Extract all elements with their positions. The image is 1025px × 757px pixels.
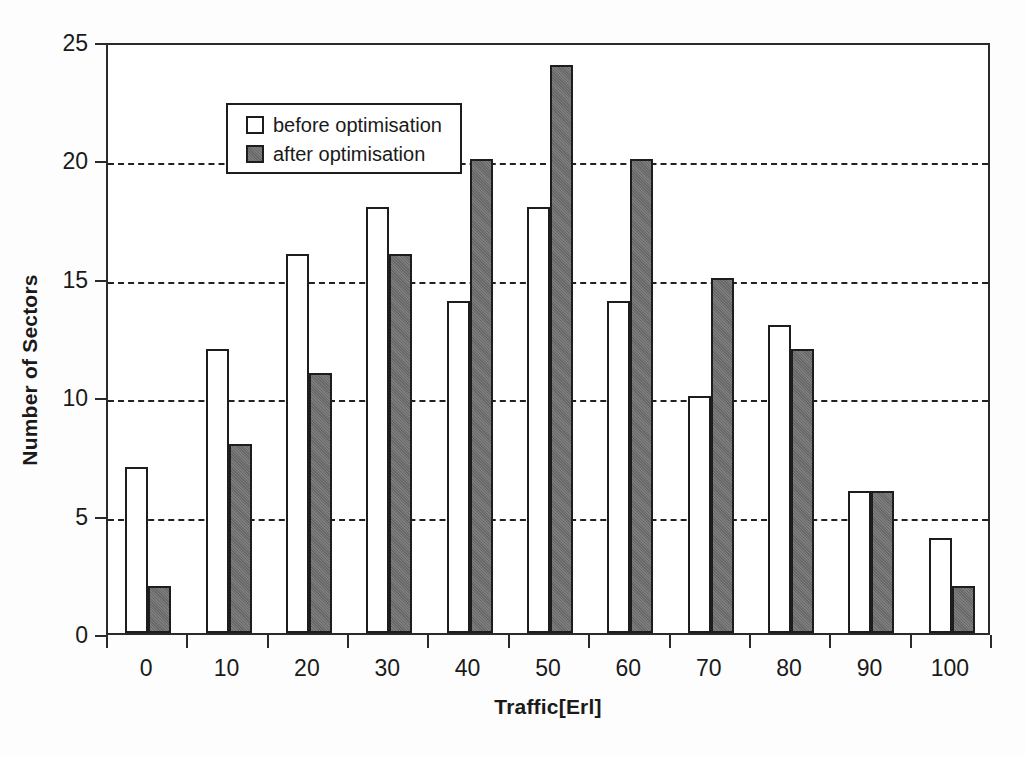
bar [929, 538, 952, 633]
legend-label-after: after optimisation [273, 144, 425, 164]
plot-area: before optimisation after optimisation [106, 43, 990, 635]
bar [447, 301, 470, 633]
x-axis-tick-mark [910, 635, 912, 648]
bar [688, 396, 711, 633]
x-axis-tick-mark [267, 635, 269, 648]
bar [470, 159, 493, 633]
bar [711, 278, 734, 633]
bar [630, 159, 653, 633]
x-axis-tick-label: 0 [140, 655, 153, 682]
x-axis-tick-mark [427, 635, 429, 648]
x-axis-tick-label: 100 [931, 655, 969, 682]
bar [791, 349, 814, 633]
y-axis-tick-mark [95, 398, 106, 400]
bar [607, 301, 630, 633]
y-axis-tick-mark [95, 517, 106, 519]
legend-label-before: before optimisation [273, 115, 442, 135]
bar [206, 349, 229, 633]
x-axis-tick-label: 30 [374, 655, 400, 682]
x-axis-tick-mark [669, 635, 671, 648]
y-axis-tick-label: 10 [36, 385, 88, 412]
y-axis-tick-label: 5 [36, 503, 88, 530]
x-axis-tick-mark [106, 635, 108, 648]
legend-entry: after optimisation [246, 139, 460, 168]
x-axis-tick-mark [347, 635, 349, 648]
chart-page: Number of Sectors 0510152025 before opti… [0, 0, 1025, 757]
bar [527, 207, 550, 633]
x-axis-tick-label: 50 [535, 655, 561, 682]
y-axis-tick-labels: 0510152025 [20, 43, 88, 635]
x-axis-tick-label: 40 [455, 655, 481, 682]
bar [125, 467, 148, 633]
y-axis-tick-mark [95, 161, 106, 163]
x-axis-tick-label: 20 [294, 655, 320, 682]
x-axis-title: Traffic[Erl] [106, 695, 990, 719]
bar [871, 491, 894, 633]
x-axis-tick-label: 60 [616, 655, 642, 682]
x-axis-tick-label: 10 [214, 655, 240, 682]
bar [952, 586, 975, 633]
y-axis-tick-label: 25 [36, 30, 88, 57]
x-axis-tick-mark [749, 635, 751, 648]
x-axis-tick-mark [186, 635, 188, 648]
bar [309, 373, 332, 633]
x-axis-tick-label: 80 [776, 655, 802, 682]
bar [768, 325, 791, 633]
x-axis-tick-mark [829, 635, 831, 648]
bar [550, 65, 573, 633]
y-axis-tick-mark [95, 280, 106, 282]
legend-swatch-before-icon [246, 116, 264, 134]
x-axis-tick-label: 90 [857, 655, 883, 682]
x-axis-tick-mark [588, 635, 590, 648]
y-axis-tick-label: 0 [36, 622, 88, 649]
y-axis-tick-mark [95, 43, 106, 45]
x-axis-tick-mark [508, 635, 510, 648]
bar [366, 207, 389, 633]
legend-swatch-after-icon [246, 145, 264, 163]
x-axis-tick-label: 70 [696, 655, 722, 682]
legend-entry: before optimisation [246, 110, 460, 139]
legend: before optimisation after optimisation [226, 103, 462, 174]
bar [286, 254, 309, 633]
x-axis-tick-mark [990, 635, 992, 648]
bar [848, 491, 871, 633]
y-axis-tick-label: 20 [36, 148, 88, 175]
y-axis-tick-mark [95, 635, 106, 637]
y-axis-tick-label: 15 [36, 266, 88, 293]
bar [148, 586, 171, 633]
bar [389, 254, 412, 633]
bar [229, 444, 252, 633]
